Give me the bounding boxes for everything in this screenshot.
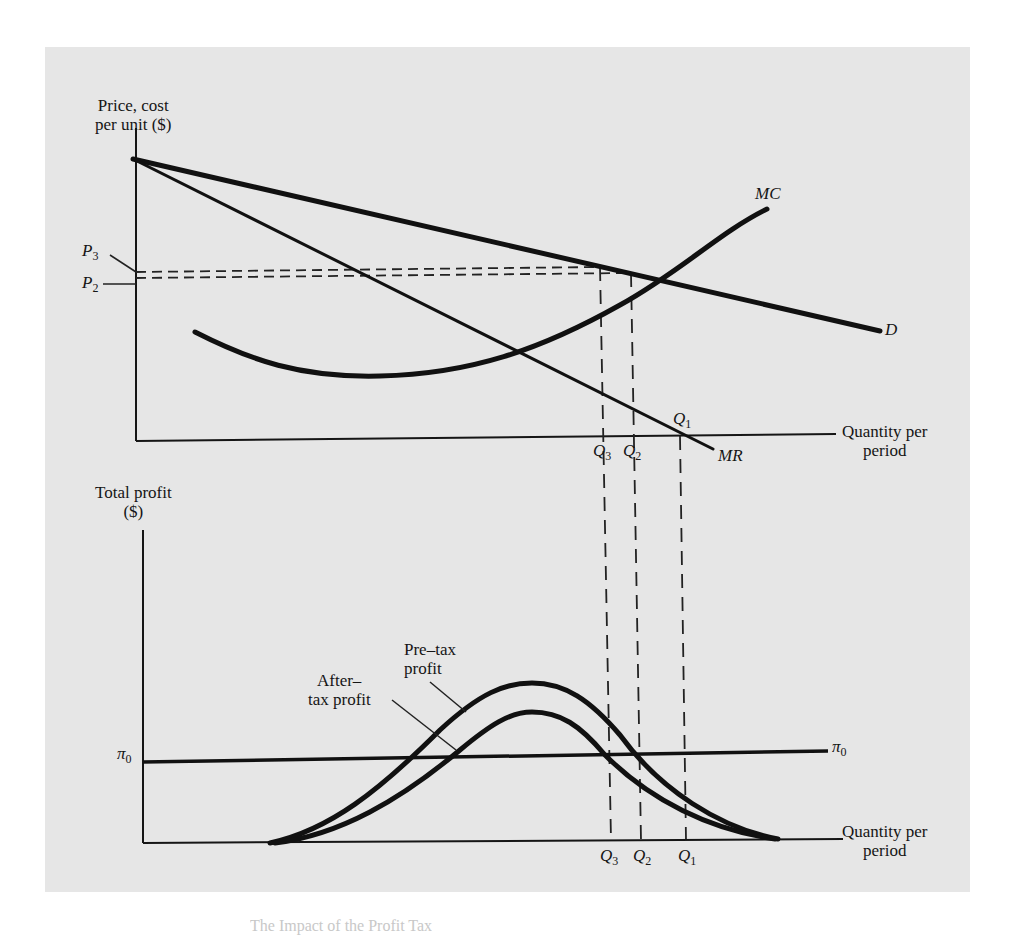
p2-label: P2	[82, 273, 98, 298]
after-tax-label-line2: tax profit	[308, 690, 371, 709]
bottom-axes	[143, 530, 843, 843]
top-q3-label: Q3	[593, 441, 611, 466]
demand-label: D	[885, 320, 897, 339]
top-x-axis-label-line1: Quantity per	[842, 422, 927, 441]
after-tax-label-line1: After–	[308, 671, 371, 690]
top-x-axis-label-line2: period	[842, 441, 927, 460]
bottom-y-axis-label-line1: Total profit	[95, 483, 172, 502]
pi0-left-label: π0	[117, 744, 132, 769]
bottom-y-axis-label: Total profit ($)	[95, 483, 172, 521]
pre-tax-label-line1: Pre–tax	[404, 640, 456, 659]
top-x-axis-label: Quantity per period	[842, 422, 927, 460]
p3-dashed-line	[136, 267, 600, 272]
top-q2-label: Q2	[623, 441, 641, 466]
economics-diagram	[0, 0, 1019, 936]
bottom-q2-label: Q2	[633, 846, 651, 871]
bottom-q1-label: Q1	[678, 846, 696, 871]
top-axes	[136, 128, 836, 441]
price-dashed-lines	[136, 267, 631, 278]
figure-caption: The Impact of the Profit Tax	[250, 917, 432, 936]
pi0-right-label: π0	[832, 737, 847, 762]
bottom-x-axis-label-line2: period	[842, 841, 927, 860]
mr-label: MR	[718, 446, 743, 465]
bottom-q3-label: Q3	[600, 846, 618, 871]
top-y-axis-label-line2: per unit ($)	[95, 115, 171, 134]
q1-dashed-line	[680, 436, 686, 840]
pre-tax-profit-label: Pre–tax profit	[404, 640, 456, 678]
top-y-axis-label: Price, cost per unit ($)	[95, 96, 171, 134]
bottom-y-axis-label-line2: ($)	[95, 502, 172, 521]
pre-tax-leader-line	[430, 682, 466, 712]
p3-label: P3	[82, 241, 98, 266]
top-y-axis-label-line1: Price, cost	[95, 96, 171, 115]
pre-tax-label-line2: profit	[404, 659, 456, 678]
mc-label: MC	[755, 184, 781, 203]
bottom-x-axis-label: Quantity per period	[842, 822, 927, 860]
top-q1-label: Q1	[673, 409, 691, 434]
pi0-line	[143, 751, 828, 762]
bottom-x-axis-label-line1: Quantity per	[842, 822, 927, 841]
after-tax-profit-curve	[275, 712, 775, 843]
after-tax-profit-label: After– tax profit	[308, 671, 371, 709]
p2-dashed-line	[136, 273, 631, 278]
p3-leader-line	[110, 255, 136, 272]
